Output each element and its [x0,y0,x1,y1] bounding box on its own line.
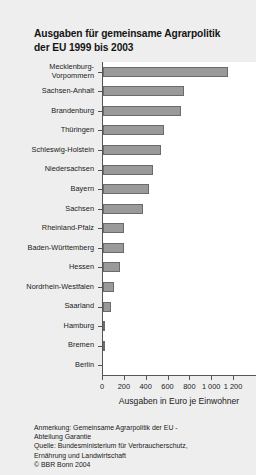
y-axis-tick [98,189,102,190]
bar [103,184,149,194]
bar-row: Nordrhein-Westfalen [0,277,256,297]
y-axis-tick [98,346,102,347]
footnote-line: Anmerkung: Gemeinsame Agrarpolitik der E… [34,423,252,432]
category-label-line: Brandenburg [2,107,94,115]
y-axis-tick [98,267,102,268]
category-label-line: Nordrhein-Westfalen [2,283,94,291]
category-label: Rheinland-Pfalz [2,224,94,232]
footnote-line: Quelle: Bundesministerium für Verbrauche… [34,441,252,450]
bar-row: Schleswig-Holstein [0,140,256,160]
bar-row: Hessen [0,258,256,278]
footnotes: Anmerkung: Gemeinsame Agrarpolitik der E… [34,423,252,469]
bar [103,341,105,351]
x-axis-label: Ausgaben in Euro je Einwohner [102,396,256,406]
category-label: Sachsen-Anhalt [2,87,94,95]
category-label-line: Hessen [2,263,94,271]
bar-row: Rheinland-Pfalz [0,219,256,239]
category-label: Niedersachsen [2,165,94,173]
bar [103,204,143,214]
category-label-line: Vorpommern [2,72,94,80]
y-axis-tick [98,130,102,131]
category-label-line: Baden-Württemberg [2,244,94,252]
footnote-line: Abteilung Garantie [34,432,252,441]
y-axis-tick [98,91,102,92]
bar [103,223,124,233]
category-label-line: Niedersachsen [2,165,94,173]
x-axis-tick-label: 1 200 [224,382,243,391]
bar-row: Niedersachsen [0,160,256,180]
y-axis-tick [98,111,102,112]
y-axis-tick [98,150,102,151]
category-label-line: Schleswig-Holstein [2,146,94,154]
bar-row: Brandenburg [0,101,256,121]
chart-title-line-2: der EU 1999 bis 2003 [34,41,248,55]
bar [103,321,105,331]
category-label-line: Sachsen [2,205,94,213]
bar-row: Berlin [0,355,256,375]
bar [103,106,181,116]
x-axis-tick [189,376,190,380]
category-label-line: Hamburg [2,322,94,330]
bar [103,145,161,155]
category-label-line: Berlin [2,361,94,369]
bar-row: Hamburg [0,316,256,336]
category-label: Saarland [2,302,94,310]
category-label: Berlin [2,361,94,369]
category-label: Hamburg [2,322,94,330]
category-label: Hessen [2,263,94,271]
bar-row: Bayern [0,179,256,199]
y-axis-tick [98,248,102,249]
x-axis-tick [124,376,125,380]
footnote-line: Ernährung und Landwirtschaft [34,451,252,460]
y-axis-tick [98,72,102,73]
category-label-line: Sachsen-Anhalt [2,87,94,95]
category-label-line: Bremen [2,341,94,349]
bar-row: Mecklenburg-Vorpommern [0,62,256,82]
category-label-line: Rheinland-Pfalz [2,224,94,232]
category-label: Bremen [2,341,94,349]
bar [103,125,164,135]
x-axis-tick [211,376,212,380]
footnote-line: © BBR Bonn 2004 [34,460,252,469]
category-label: Mecklenburg-Vorpommern [2,63,94,80]
x-axis-tick-label: 200 [118,382,130,391]
bar [103,67,228,77]
bar [103,165,153,175]
x-axis-tick-label: 0 [100,382,104,391]
category-label: Schleswig-Holstein [2,146,94,154]
x-axis-tick-label: 600 [161,382,173,391]
y-axis-tick [98,287,102,288]
bar-row: Baden-Württemberg [0,238,256,258]
bar-row: Sachsen [0,199,256,219]
bar [103,262,120,272]
category-label: Brandenburg [2,107,94,115]
y-axis-tick [98,170,102,171]
x-axis-tick-label: 400 [139,382,151,391]
bar [103,243,124,253]
category-label: Nordrhein-Westfalen [2,283,94,291]
x-axis-tick [146,376,147,380]
bar-row: Saarland [0,297,256,317]
bar [103,302,111,312]
y-axis-tick [98,365,102,366]
category-label-line: Bayern [2,185,94,193]
bar-row: Bremen [0,336,256,356]
category-label-line: Thüringen [2,126,94,134]
x-axis-tick [168,376,169,380]
category-label: Bayern [2,185,94,193]
category-label: Thüringen [2,126,94,134]
chart-title-line-1: Ausgaben für gemeinsame Agrarpolitik [34,27,248,41]
y-axis-tick [98,326,102,327]
bar [103,86,184,96]
category-label-line: Saarland [2,302,94,310]
x-axis-tick-label: 1 000 [202,382,221,391]
y-axis-tick [98,209,102,210]
x-axis-tick [233,376,234,380]
y-axis-tick [98,307,102,308]
x-axis-tick-label: 800 [183,382,195,391]
category-label: Baden-Württemberg [2,244,94,252]
chart-title: Ausgaben für gemeinsame Agrarpolitik der… [34,27,248,54]
y-axis-tick [98,228,102,229]
chart-figure: Ausgaben für gemeinsame Agrarpolitik der… [0,0,256,475]
x-axis-tick [102,376,103,380]
